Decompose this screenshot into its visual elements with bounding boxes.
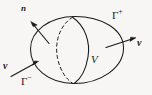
label-normal-vector: n <box>21 4 26 13</box>
visible-arc-solid <box>73 17 89 83</box>
normal-arrow <box>31 22 49 44</box>
label-gamma-minus: Γ− <box>21 74 32 87</box>
label-volume: V <box>91 54 98 65</box>
label-gamma-minus-superscript: − <box>27 73 31 82</box>
label-velocity-right: v <box>137 38 141 48</box>
hidden-arc-dashed <box>57 17 73 83</box>
label-velocity-left: v <box>3 61 7 71</box>
label-gamma-plus-superscript: + <box>118 7 122 16</box>
outer-surface-ellipse <box>31 17 124 84</box>
label-gamma-plus: Γ+ <box>112 8 123 21</box>
figure-canvas: n Γ+ Γ− v v V <box>0 0 152 95</box>
outflow-arrow <box>106 37 136 47</box>
